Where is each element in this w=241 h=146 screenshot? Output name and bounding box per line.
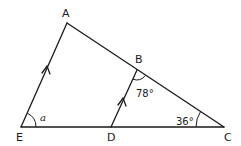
vertex-label-a: A — [62, 7, 70, 20]
vertex-label-e: E — [16, 131, 23, 144]
segment-ac — [67, 23, 224, 127]
angle-label-36: 36° — [176, 116, 194, 127]
vertex-label-c: C — [224, 131, 232, 144]
angle-label-a: a — [40, 112, 46, 123]
angle-arc-e — [28, 113, 37, 127]
angle-label-78: 78° — [136, 88, 154, 99]
vertex-label-b: B — [135, 53, 143, 66]
vertex-label-d: D — [107, 131, 115, 144]
angle-arc-c — [196, 112, 201, 128]
geometry-diagram: A B C D E a 78° 36° — [0, 0, 241, 146]
segment-db — [111, 70, 137, 127]
